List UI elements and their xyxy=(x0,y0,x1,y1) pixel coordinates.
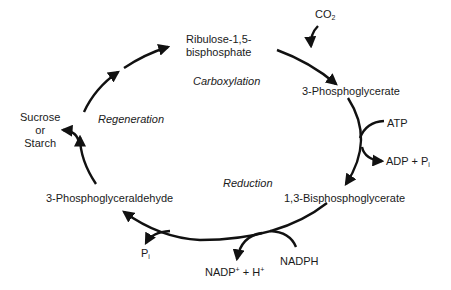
nadp-base: NADP xyxy=(205,266,236,278)
arrow-adp xyxy=(362,147,382,161)
phase-reduction: Reduction xyxy=(223,177,273,190)
node-3-phosphoglyceraldehyde: 3-Phosphoglyceraldehyde xyxy=(46,192,173,205)
arrow-sucrose xyxy=(63,130,79,144)
node-rubp: Ribulose-1,5- bisphosphate xyxy=(186,33,251,59)
sucrose-line1: Sucrose xyxy=(20,111,60,124)
label-nadph: NADPH xyxy=(280,255,319,268)
h-sup: + xyxy=(260,266,264,273)
rubp-line1: Ribulose-1,5- xyxy=(186,33,251,46)
node-3-phosphoglycerate: 3-Phosphoglycerate xyxy=(302,85,400,98)
arrow-pga-bpg xyxy=(346,98,361,184)
co2-base: CO xyxy=(315,8,332,20)
adp-pi-base: ADP + P xyxy=(386,155,428,167)
node-sucrose-starch: Sucrose or Starch xyxy=(20,111,60,150)
label-pi: Pi xyxy=(141,247,150,260)
rubp-line2: bisphosphate xyxy=(186,46,251,59)
arrow-regeneration-1 xyxy=(84,72,118,112)
adp-pi-sub: i xyxy=(428,161,430,168)
arrow-carboxylation xyxy=(277,50,336,84)
arrow-co2 xyxy=(311,26,318,46)
phase-regeneration: Regeneration xyxy=(98,113,164,126)
arrow-regeneration-2 xyxy=(124,47,168,68)
label-nadp-h: NADP+ + H+ xyxy=(205,266,264,279)
node-1-3-bisphosphoglycerate: 1,3-Bisphosphoglycerate xyxy=(284,192,405,205)
arrow-nadph xyxy=(270,231,296,247)
sucrose-line2: or xyxy=(20,124,60,137)
h-base: + H xyxy=(240,266,260,278)
label-co2: CO2 xyxy=(315,8,335,21)
label-adp-pi: ADP + Pi xyxy=(386,155,430,168)
arrow-atp xyxy=(360,121,384,138)
co2-sub: 2 xyxy=(332,14,336,21)
arrow-g3p-up xyxy=(80,137,96,184)
pi-sub: i xyxy=(148,253,150,260)
phase-carboxylation: Carboxylation xyxy=(193,75,260,88)
label-atp: ATP xyxy=(387,117,408,130)
sucrose-line3: Starch xyxy=(20,137,60,150)
